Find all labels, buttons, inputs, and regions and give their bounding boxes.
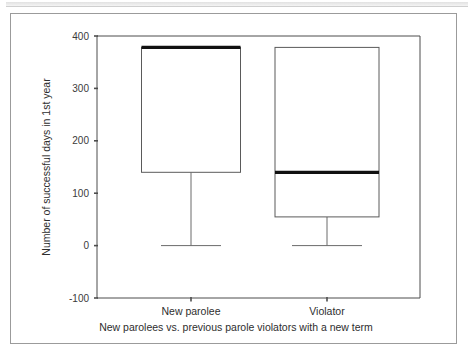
x-category-label-new-parolee: New parolee xyxy=(162,305,221,317)
y-axis-ticks: 400 300 200 100 0 -100 xyxy=(69,31,98,304)
box-plot-group-new-parolee xyxy=(142,47,241,245)
y-tick-label-400: 400 xyxy=(72,31,89,42)
box-body-new-parolee xyxy=(142,47,241,172)
box-body-violator xyxy=(275,47,379,217)
y-tick-label-200: 200 xyxy=(72,135,89,146)
y-tick-label-neg100: -100 xyxy=(69,293,89,304)
y-axis-title: Number of successful days in 1st year xyxy=(40,78,52,256)
y-tick-label-0: 0 xyxy=(83,240,89,251)
box-plot-chart: 400 300 200 100 0 -100 Number of success… xyxy=(0,0,473,361)
box-plot-group-violator xyxy=(275,47,379,245)
x-category-label-violator: Violator xyxy=(309,305,345,317)
x-axis-title: New parolees vs. previous parole violato… xyxy=(99,321,373,333)
y-tick-label-300: 300 xyxy=(72,83,89,94)
y-tick-label-100: 100 xyxy=(72,188,89,199)
